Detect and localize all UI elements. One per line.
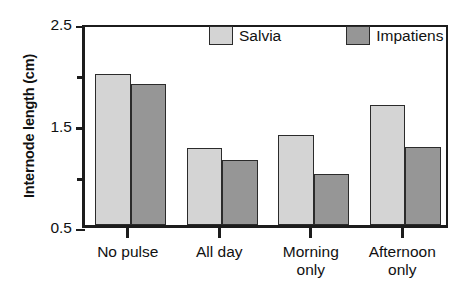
legend-entry-salvia: Salvia <box>209 26 281 45</box>
x-axis-tick-label: Morning only <box>265 243 357 278</box>
x-axis-tick <box>401 228 404 238</box>
y-axis-minor-tick <box>77 76 85 79</box>
y-axis-major-tick <box>76 26 85 29</box>
bar-salvia-2 <box>278 135 314 225</box>
bar-impatiens-0 <box>131 84 167 225</box>
y-axis-major-tick <box>76 127 85 130</box>
legend-entry-impatiens: Impatiens <box>346 26 443 45</box>
y-axis-tick-label: 1.5 <box>32 119 72 135</box>
x-axis-tick-label: No pulse <box>82 243 174 261</box>
legend-swatch-salvia <box>209 26 233 45</box>
y-axis-tick-labels: 2.51.50.5 <box>26 0 72 307</box>
x-axis-tick-label: All day <box>174 243 266 261</box>
legend: SalviaImpatiens <box>209 26 443 45</box>
bar-salvia-3 <box>370 105 406 225</box>
plot-area <box>82 25 448 228</box>
y-axis-tick-label: 0.5 <box>32 220 72 236</box>
y-axis-major-tick <box>76 229 85 232</box>
y-axis-tick-label: 2.5 <box>32 17 72 33</box>
bar-chart-figure: Internode length (cm) 2.51.50.5 No pulse… <box>0 0 468 307</box>
x-axis-tick-label: Afternoon only <box>357 243 449 278</box>
y-axis-minor-tick <box>77 178 85 181</box>
legend-label-salvia: Salvia <box>239 28 281 44</box>
bar-salvia-1 <box>187 148 223 225</box>
x-axis-tick <box>126 228 129 238</box>
bar-impatiens-2 <box>314 174 350 225</box>
bar-impatiens-3 <box>405 147 441 225</box>
x-axis-tick <box>309 228 312 238</box>
bars-layer <box>85 27 446 225</box>
x-axis-tick <box>218 228 221 238</box>
legend-label-impatiens: Impatiens <box>376 28 443 44</box>
bar-salvia-0 <box>95 74 131 225</box>
bar-impatiens-1 <box>222 160 258 225</box>
legend-swatch-impatiens <box>346 26 370 45</box>
